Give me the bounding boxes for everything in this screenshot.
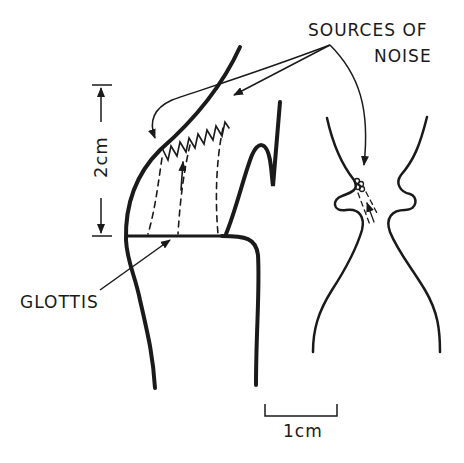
horizontal-scale-label: 1cm [283,423,323,440]
sources-of-noise-label-line1: SOURCES OF [308,22,428,39]
glottis-label: GLOTTIS [20,294,99,311]
dashed-flow-3 [216,128,223,234]
flow-arrow [181,162,183,190]
noise-source-cluster [355,179,365,192]
horizontal-scale-bar [265,404,337,416]
trachea-front-wall [222,236,259,385]
larynx-coronal-section [313,117,440,352]
vertical-scale-label: 2cm [92,136,110,178]
larynx-left-wall [313,118,363,352]
posterior-wall [126,47,240,388]
callout-arrow-to-zigzag [234,45,330,95]
coronal-dashed-flow-1 [358,193,370,225]
dashed-flow-1 [148,158,162,234]
vocal-tract-profile [126,47,280,388]
dashed-flow-2 [178,145,190,234]
diagram-canvas [0,0,464,463]
sources-of-noise-label-line2: NOISE [374,48,432,65]
larynx-right-wall [388,117,440,352]
epiglottis [226,102,280,234]
